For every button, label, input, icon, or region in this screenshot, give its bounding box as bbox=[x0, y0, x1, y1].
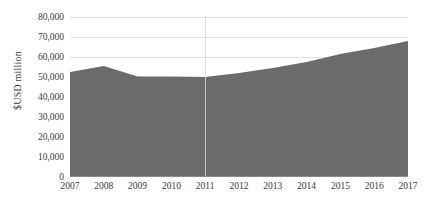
y-tick-label: 40,000 bbox=[38, 92, 64, 102]
x-tick-label: 2016 bbox=[365, 181, 384, 191]
x-tick-label: 2015 bbox=[331, 181, 350, 191]
x-tick-label: 2010 bbox=[162, 181, 181, 191]
x-axis-tick-labels: 2007200820092010201120122013201420152016… bbox=[70, 181, 408, 201]
x-tick-label: 2014 bbox=[297, 181, 316, 191]
y-tick-label: 30,000 bbox=[38, 112, 64, 122]
y-tick-label: 20,000 bbox=[38, 132, 64, 142]
y-tick-label: 10,000 bbox=[38, 152, 64, 162]
divider-2011 bbox=[205, 17, 206, 177]
x-tick-label: 2009 bbox=[128, 181, 147, 191]
x-tick-label: 2008 bbox=[94, 181, 113, 191]
x-tick-label: 2007 bbox=[61, 181, 80, 191]
y-tick-label: 70,000 bbox=[38, 32, 64, 42]
y-tick-label: 80,000 bbox=[38, 12, 64, 22]
area-series-path bbox=[70, 17, 408, 177]
y-tick-label: 60,000 bbox=[38, 52, 64, 62]
x-tick-label: 2012 bbox=[230, 181, 249, 191]
y-axis-tick-labels: 010,00020,00030,00040,00050,00060,00070,… bbox=[0, 0, 68, 210]
x-axis-line bbox=[70, 176, 408, 177]
plot-area bbox=[70, 17, 408, 177]
area-chart: $USD million 010,00020,00030,00040,00050… bbox=[0, 0, 431, 210]
x-tick-label: 2013 bbox=[263, 181, 282, 191]
y-tick-label: 50,000 bbox=[38, 72, 64, 82]
x-tick-label: 2011 bbox=[196, 181, 215, 191]
x-tick-label: 2017 bbox=[399, 181, 418, 191]
